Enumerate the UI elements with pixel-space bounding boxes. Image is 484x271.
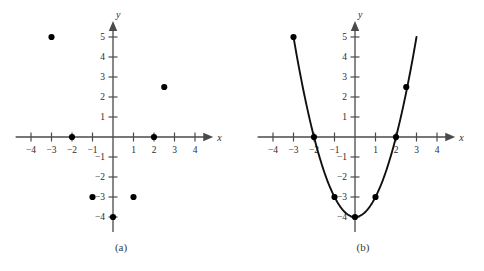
y-tick-label: 1 xyxy=(342,112,347,122)
y-tick-label: 4 xyxy=(342,52,347,62)
caption-a: (a) xyxy=(0,241,242,253)
figure-panel-a: xy−4−3−2−1123454321−1−2−3−4 (a) xyxy=(0,0,242,271)
y-tick-label: −3 xyxy=(95,192,105,202)
data-point xyxy=(393,134,399,140)
y-axis-label: y xyxy=(115,9,121,20)
data-point xyxy=(161,84,167,90)
data-point xyxy=(331,194,337,200)
x-tick-label: 4 xyxy=(435,145,440,155)
y-axis-arrow xyxy=(109,21,117,31)
y-tick-label: 5 xyxy=(342,32,347,42)
y-axis-label: y xyxy=(357,9,363,20)
y-tick-label: −4 xyxy=(95,212,105,222)
y-tick-label: −2 xyxy=(337,172,347,182)
x-axis-label: x xyxy=(458,132,464,143)
data-point xyxy=(311,134,317,140)
data-point xyxy=(290,34,296,40)
data-point xyxy=(89,194,95,200)
x-tick-label: −3 xyxy=(46,145,56,155)
data-point xyxy=(48,34,54,40)
y-tick-label: 2 xyxy=(342,92,347,102)
y-tick-label: 5 xyxy=(100,32,105,42)
caption-b: (b) xyxy=(242,241,484,253)
x-tick-label: 1 xyxy=(131,145,136,155)
x-tick-label: −3 xyxy=(288,145,298,155)
data-point xyxy=(403,84,409,90)
figure-panel-b: xy−4−3−2−1123454321−1−2−3−4 (b) xyxy=(242,0,484,271)
x-tick-label: 4 xyxy=(193,145,198,155)
x-tick-label: 3 xyxy=(172,145,177,155)
data-point xyxy=(110,214,116,220)
x-tick-label: −4 xyxy=(26,145,36,155)
data-point xyxy=(69,134,75,140)
data-point xyxy=(372,194,378,200)
y-tick-label: 3 xyxy=(342,72,347,82)
y-tick-label: −1 xyxy=(95,152,105,162)
x-tick-label: −2 xyxy=(67,145,77,155)
x-axis-label: x xyxy=(216,132,222,143)
plot-a: xy−4−3−2−1123454321−1−2−3−4 xyxy=(0,0,242,271)
data-point xyxy=(151,134,157,140)
x-axis-arrow xyxy=(203,133,213,141)
y-axis-arrow xyxy=(351,21,359,31)
y-tick-label: 3 xyxy=(100,72,105,82)
x-tick-label: 2 xyxy=(152,145,157,155)
data-point xyxy=(352,214,358,220)
y-tick-label: −1 xyxy=(337,152,347,162)
x-axis-arrow xyxy=(445,133,455,141)
data-point xyxy=(130,194,136,200)
y-tick-label: 4 xyxy=(100,52,105,62)
y-tick-label: 2 xyxy=(100,92,105,102)
y-tick-label: −3 xyxy=(337,192,347,202)
x-tick-label: 1 xyxy=(373,145,378,155)
y-tick-label: 1 xyxy=(100,112,105,122)
x-tick-label: −4 xyxy=(268,145,278,155)
plot-b: xy−4−3−2−1123454321−1−2−3−4 xyxy=(242,0,484,271)
y-tick-label: −2 xyxy=(95,172,105,182)
x-tick-label: 3 xyxy=(414,145,419,155)
